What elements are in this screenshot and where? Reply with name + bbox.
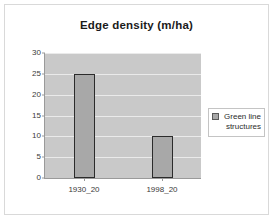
y-axis-tick-label: 25 — [32, 70, 41, 78]
y-axis-tick — [42, 94, 45, 95]
y-axis-tick — [42, 178, 45, 179]
chart-title: Edge density (m/ha) — [5, 19, 268, 31]
y-axis-tick-label: 20 — [32, 91, 41, 99]
y-axis-tick-label: 5 — [37, 153, 41, 161]
y-axis-tick — [42, 136, 45, 137]
gridline — [45, 95, 201, 96]
legend-item: Green line structures — [212, 112, 261, 132]
x-axis-tick — [84, 178, 85, 181]
plot-area: 0510152025301930_201998_20 — [44, 53, 201, 179]
chart-container: Edge density (m/ha) 0510152025301930_201… — [4, 4, 269, 215]
y-axis-tick — [42, 53, 45, 54]
y-axis-tick — [42, 115, 45, 116]
gridline — [45, 53, 201, 54]
y-axis-tick-label: 15 — [32, 112, 41, 120]
x-axis-tick-label: 1930_20 — [68, 186, 99, 194]
gridline — [45, 157, 201, 158]
y-axis-tick — [42, 73, 45, 74]
x-axis-tick-label: 1998_20 — [146, 186, 177, 194]
bar — [74, 74, 95, 178]
y-axis-tick-label: 10 — [32, 132, 41, 140]
chart-legend: Green line structures — [208, 108, 265, 137]
gridline — [45, 74, 201, 75]
y-axis-tick-label: 0 — [37, 174, 41, 182]
legend-swatch-icon — [212, 113, 219, 120]
x-axis-tick — [162, 178, 163, 181]
bar — [152, 136, 173, 178]
y-axis-tick — [42, 157, 45, 158]
y-axis-tick-label: 30 — [32, 49, 41, 57]
legend-label: Green line structures — [222, 112, 261, 132]
gridline — [45, 136, 201, 137]
gridline — [45, 116, 201, 117]
